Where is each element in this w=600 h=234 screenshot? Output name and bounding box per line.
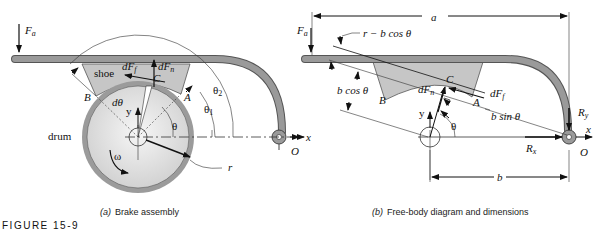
label-b: B: [84, 91, 91, 103]
panel-a-brake-assembly: Fa: [15, 24, 311, 217]
figure-number: FIGURE 15-9: [2, 220, 79, 231]
label-omega: ω: [114, 150, 121, 162]
label-theta2: θ2: [213, 84, 222, 98]
label-theta-b: θ: [451, 120, 456, 132]
caption-b: (b)Free-body diagram and dimensions: [372, 207, 529, 217]
label-shoe: shoe: [94, 67, 114, 79]
label-drum: drum: [48, 130, 72, 142]
label-a-point: A: [472, 96, 480, 108]
label-c-b: C: [446, 73, 454, 85]
label-fa: Fa: [24, 24, 36, 38]
panel-b-free-body-diagram: a Fa: [290, 11, 592, 217]
label-dff-b: dFf: [490, 87, 506, 101]
brake-figure: Fa: [0, 0, 600, 234]
label-a: A: [183, 91, 191, 103]
label-dtheta: dθ: [112, 96, 124, 108]
label-ry: Ry: [577, 106, 589, 120]
label-dim-a: a: [431, 11, 437, 23]
label-rx: Rx: [525, 142, 537, 156]
label-x: x: [305, 131, 311, 143]
label-c: C: [153, 72, 161, 84]
label-b-sin-theta: b sin θ: [491, 110, 521, 122]
label-x-b: x: [585, 123, 591, 135]
label-y-b: y: [419, 107, 425, 119]
label-o-b: O: [580, 146, 588, 158]
caption-a: (a)Brake assembly: [100, 207, 180, 217]
label-b-cos-theta: b cos θ: [337, 84, 369, 96]
label-y: y: [126, 105, 132, 117]
label-r-minus-b-cos-theta: r − b cos θ: [363, 27, 412, 39]
label-theta1: θ1: [204, 103, 213, 117]
label-dim-b: b: [497, 171, 503, 183]
label-fa-b: Fa: [296, 24, 308, 38]
label-o: O: [291, 145, 299, 157]
label-theta: θ: [172, 120, 177, 132]
label-r: r: [228, 161, 233, 173]
label-b-point: B: [379, 94, 386, 106]
